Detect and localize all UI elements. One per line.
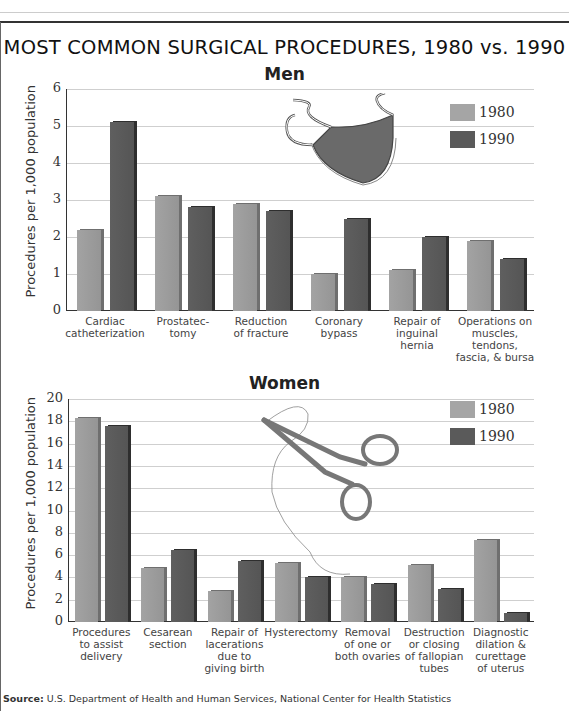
y-tick-label: 14 [35, 457, 63, 472]
legend-item-1980: 1980 [450, 397, 515, 421]
y-tick-label: 10 [35, 502, 63, 517]
bar-1990 [438, 589, 461, 622]
legend-label-1990: 1990 [479, 428, 515, 444]
legend-swatch-1980 [450, 401, 475, 418]
women-chart-title: Women [0, 373, 569, 393]
y-tick-label: 8 [35, 524, 63, 539]
bar-1980 [141, 568, 164, 622]
women-y-axis [68, 399, 69, 622]
y-tick-label: 0 [35, 613, 63, 628]
bar-1980 [474, 540, 497, 623]
y-tick-label: 16 [35, 435, 63, 450]
women-chart: Women Procedures per 1,000 population 19… [0, 0, 569, 711]
y-tick-label: 2 [35, 591, 63, 606]
y-tick-label: 12 [35, 479, 63, 494]
legend-swatch-1990 [450, 428, 475, 445]
x-tick-label: Diagnostic dilation & curettage of uteru… [461, 626, 540, 674]
forceps-icon [250, 402, 430, 602]
legend-label-1980: 1980 [479, 401, 515, 417]
source-note: Source: U.S. Department of Health and Hu… [3, 693, 451, 704]
bar-1990 [171, 550, 194, 622]
women-legend: 1980 1990 [450, 397, 515, 451]
bar-1980 [75, 418, 98, 622]
legend-item-1990: 1990 [450, 424, 515, 448]
y-tick-label: 20 [35, 390, 63, 405]
source-text: U.S. Department of Health and Human Serv… [47, 693, 452, 704]
y-tick-label: 18 [35, 412, 63, 427]
bar-1990 [105, 426, 128, 622]
y-tick-label: 6 [35, 546, 63, 561]
y-tick-label: 4 [35, 568, 63, 583]
bar-1990 [504, 613, 527, 622]
bar-1980 [208, 591, 231, 622]
source-label: Source: [3, 693, 44, 704]
women-x-axis [68, 621, 534, 622]
